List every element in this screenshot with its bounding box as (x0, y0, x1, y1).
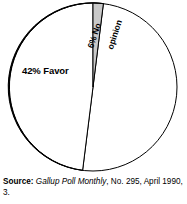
pie-slice-favor[interactable] (9, 3, 93, 170)
source-note: Source: Gallup Poll Monthly, No. 295, Ap… (3, 177, 187, 199)
pie-chart-figure: 42% Favor 52% Oppose 6% No opinion Sourc… (0, 0, 187, 204)
source-publication: Gallup Poll Monthly (36, 177, 107, 186)
pie-chart-plot: 42% Favor 52% Oppose 6% No opinion (0, 0, 187, 176)
slice-label-no-opinion-name: opinion (106, 9, 127, 51)
slice-label-favor: 42% Favor (22, 66, 69, 76)
source-label: Source: (3, 177, 33, 186)
slice-label-oppose-name: Oppose (102, 108, 137, 119)
slice-label-oppose: 52% Oppose (102, 88, 137, 119)
